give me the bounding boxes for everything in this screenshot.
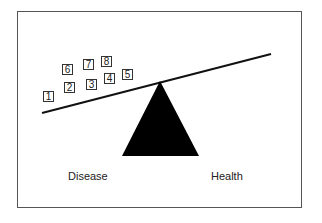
weight-box-5: 5 xyxy=(122,69,133,80)
fulcrum-triangle xyxy=(122,81,199,156)
weight-box-3: 3 xyxy=(86,79,97,90)
weight-box-2: 2 xyxy=(64,82,75,93)
label-disease: Disease xyxy=(68,170,108,182)
weight-box-6: 6 xyxy=(62,64,73,75)
label-health: Health xyxy=(211,170,243,182)
weight-box-4: 4 xyxy=(104,73,115,84)
weight-box-8: 8 xyxy=(101,56,112,67)
weight-box-1: 1 xyxy=(43,91,54,102)
weight-box-7: 7 xyxy=(83,59,94,70)
balance-graphic xyxy=(0,0,322,223)
